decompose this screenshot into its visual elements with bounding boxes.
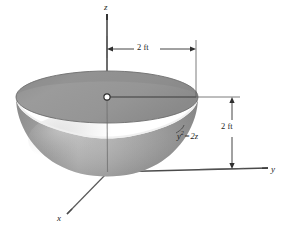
figure-canvas — [0, 0, 286, 233]
radius-dim-arrow-left — [107, 46, 113, 51]
z-axis-interior-segment — [107, 97, 108, 172]
x-axis-label: x — [57, 214, 61, 223]
equation-operator: = — [184, 131, 191, 141]
x-axis-tip — [67, 209, 72, 214]
radius-dim-arrow-right — [190, 46, 196, 51]
depth-dim-arrow-top — [229, 97, 234, 103]
paraboloid-figure: z y x 2 ft 2 ft y2=2z — [0, 0, 286, 233]
equation-expression: 2z — [191, 131, 199, 141]
depth-dim-arrow-bottom — [229, 163, 234, 169]
origin-marker — [104, 94, 110, 100]
y-axis-label: y — [271, 165, 275, 174]
depth-dimension — [196, 97, 244, 169]
surface-equation-label: y2=2z — [177, 130, 198, 140]
radius-dimension-label: 2 ft — [137, 43, 149, 52]
depth-dimension-label: 2 ft — [221, 122, 233, 131]
z-axis-label: z — [104, 3, 108, 12]
x-axis-line — [67, 172, 108, 214]
